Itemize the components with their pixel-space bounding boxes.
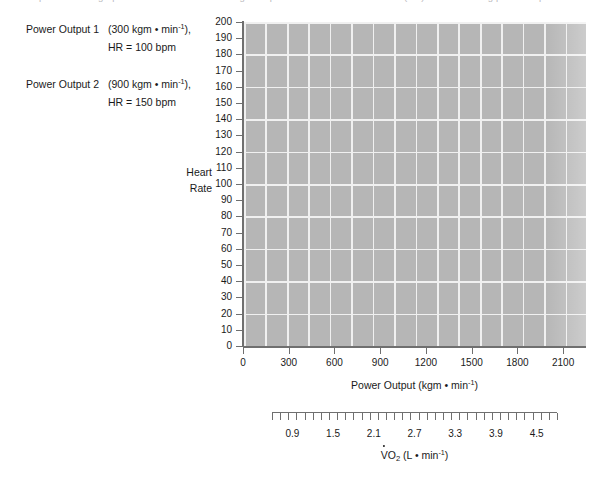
vo2-axis-minor-tick (427, 413, 428, 420)
vo2-axis-minor-tick (500, 413, 501, 420)
legend-value-power-output-2: (900 kgm • min-1), (108, 77, 191, 92)
overdot-icon (383, 445, 385, 447)
y-axis-tick-label: 80 (206, 211, 232, 221)
y-axis-title-line-1: Heart (150, 164, 212, 180)
x-axis-tick (334, 347, 335, 354)
vo2-axis-minor-tick (362, 413, 363, 420)
y-axis-tick (236, 184, 242, 185)
vo2-axis-minor-tick (492, 413, 493, 420)
y-axis-tick (236, 200, 242, 201)
vo2-axis-tick-label: 0.9 (272, 429, 312, 439)
x-axis-tick-label: 1500 (449, 358, 495, 368)
vo2-axis-tick-label: 3.9 (476, 429, 516, 439)
x-axis-tick-label: 1200 (403, 358, 449, 368)
y-axis-tick-label: 140 (206, 114, 232, 124)
legend-label-power-output-2: Power Output 2 (14, 77, 108, 92)
y-axis-tick-label: 160 (206, 82, 232, 92)
legend-hr-power-output-2: HR = 150 bpm (108, 95, 210, 110)
vo2-axis-minor-tick (533, 413, 534, 420)
y-axis-tick-label: 130 (206, 130, 232, 140)
x-axis-tick-label: 900 (357, 358, 403, 368)
vo2-axis-minor-tick (394, 413, 395, 420)
power-output-legend: Power Output 1 (300 kgm • min-1), HR = 1… (14, 22, 210, 110)
x-axis-tick-label: 0 (220, 358, 266, 368)
y-axis-tick (236, 233, 242, 234)
y-axis-tick-label: 150 (206, 98, 232, 108)
vo2-axis-minor-tick (557, 413, 558, 420)
y-axis-tick (236, 265, 242, 266)
y-axis-tick (236, 216, 242, 217)
x-axis-tick-label: 1800 (494, 358, 540, 368)
y-axis-tick (236, 330, 242, 331)
legend-value-prefix-1: (300 kgm • min (108, 23, 178, 35)
vo2-axis-minor-tick (280, 413, 281, 420)
vo2-axis-minor-tick (443, 413, 444, 420)
x-axis-tick (426, 347, 427, 354)
vo2-title-o: O (388, 449, 396, 461)
x-axis-title: Power Output (kgm • min-1) (243, 379, 586, 391)
y-axis-tick (236, 87, 242, 88)
vo2-title-v: V (381, 449, 388, 461)
vo2-axis-tick-label: 1.5 (313, 429, 353, 439)
y-axis-tick (236, 54, 242, 55)
y-axis-tick (236, 103, 242, 104)
x-axis-title-prefix: Power Output (kgm • min (351, 379, 468, 391)
x-axis-tick (472, 347, 473, 354)
y-axis-line (242, 21, 244, 347)
y-axis-tick (236, 314, 242, 315)
y-axis-tick-label: 10 (206, 325, 232, 335)
vo2-axis-minor-tick (402, 413, 403, 420)
x-axis-tick (243, 347, 244, 354)
y-axis-tick (236, 168, 242, 169)
vo2-axis-minor-tick (321, 413, 322, 420)
vo2-axis-minor-tick (296, 413, 297, 420)
vo2-axis-title: VO2 (L • min-1) (272, 449, 557, 461)
vo2-axis-minor-tick (410, 413, 411, 420)
y-axis-tick-label: 20 (206, 309, 232, 319)
legend-item-power-output-1: Power Output 1 (300 kgm • min-1), (14, 22, 210, 37)
clipped-top-text-content: the the points on the graph and then dra… (6, 0, 560, 2)
vo2-axis-minor-tick (435, 413, 436, 420)
y-axis-tick-label: 40 (206, 276, 232, 286)
vo2-title-units: (L • min (400, 449, 438, 461)
vo2-axis-minor-tick (370, 413, 371, 420)
x-axis-tick (563, 347, 564, 354)
x-axis-tick (380, 347, 381, 354)
y-axis-tick-label: 0 (206, 341, 232, 351)
vo2-axis-tick-label: 2.1 (354, 429, 394, 439)
vo2-axis-minor-tick (459, 413, 460, 420)
v-dot-symbol: V (381, 449, 388, 461)
x-axis-tick-label: 600 (311, 358, 357, 368)
x-axis-tick-label: 2100 (540, 358, 586, 368)
y-axis-tick-label: 100 (206, 179, 232, 189)
vo2-title-close: ) (445, 449, 449, 461)
vo2-axis-tick-label: 3.3 (435, 429, 475, 439)
y-axis-tick-label: 60 (206, 244, 232, 254)
vo2-axis-minor-tick (313, 413, 314, 420)
vo2-axis-minor-tick (524, 413, 525, 420)
vo2-axis-minor-tick (386, 413, 387, 420)
vo2-axis-minor-tick (419, 413, 420, 420)
y-axis-tick (236, 281, 242, 282)
y-axis-title: Heart Rate (150, 164, 212, 196)
legend-item-power-output-2: Power Output 2 (900 kgm • min-1), (14, 77, 210, 92)
vo2-axis-minor-tick (549, 413, 550, 420)
vo2-axis-tick-label: 4.5 (517, 429, 557, 439)
y-axis-tick-label: 200 (206, 17, 232, 27)
vo2-axis-minor-tick (305, 413, 306, 420)
x-axis-title-suffix: ) (474, 379, 478, 391)
vo2-axis-minor-tick (337, 413, 338, 420)
legend-value-suffix-2: ), (185, 78, 191, 90)
y-axis-tick-label: 50 (206, 260, 232, 270)
vo2-axis-line (272, 412, 557, 413)
y-axis-tick (236, 249, 242, 250)
x-axis-tick (289, 347, 290, 354)
y-axis-tick-label: 190 (206, 33, 232, 43)
legend-label-power-output-1: Power Output 1 (14, 22, 108, 37)
vo2-axis-minor-tick (516, 413, 517, 420)
clipped-top-text: the the points on the graph and then dra… (0, 0, 609, 9)
y-axis-tick-label: 170 (206, 66, 232, 76)
vo2-axis-minor-tick (484, 413, 485, 420)
y-axis-tick-label: 70 (206, 228, 232, 238)
y-axis-tick (236, 135, 242, 136)
